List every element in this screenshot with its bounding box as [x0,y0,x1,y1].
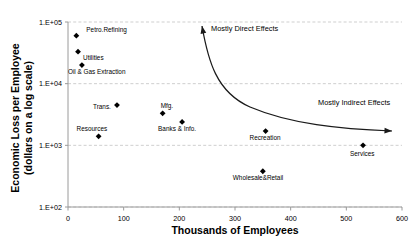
data-point-label: Utilities [83,54,104,61]
y-tick-label: 1.E+05 [39,18,62,27]
x-tick-label: 600 [396,214,408,223]
data-point-label: Services [350,150,375,157]
scatter-chart: 1.E+021.E+031.E+041.E+05 010020030040050… [0,0,418,243]
x-tick-label: 200 [173,214,185,223]
x-tick-label: 0 [66,214,70,223]
data-point-label: Oil & Gas Extraction [68,68,126,75]
x-tick-label: 100 [118,214,130,223]
data-point-label: Banks & Info. [158,125,196,132]
data-point-label: Wholesale&Retail [233,174,283,181]
y-axis-title-line1: Economic Loss per Employee [9,43,21,193]
y-tick-label: 1.E+02 [39,203,62,212]
x-tick-label: 500 [340,214,352,223]
data-point-label: Petro.Refining [86,26,127,34]
annotation-mostly-direct-effects: Mostly Direct Effects [211,24,279,33]
x-tick-label: 300 [229,214,241,223]
chart-canvas: 1.E+021.E+031.E+041.E+05 010020030040050… [0,0,418,243]
x-tick-label: 400 [285,214,297,223]
data-point-label: Resources [77,125,108,132]
annotation-mostly-indirect-effects: Mostly Indirect Effects [318,98,390,107]
data-point-label: Trans. [93,103,111,110]
data-point-label: Mfg. [161,102,174,110]
y-tick-label: 1.E+03 [39,141,62,150]
data-point-label: Recreation [250,134,281,141]
y-tick-label: 1.E+04 [39,79,62,88]
x-axis-title: Thousands of Employees [171,224,298,236]
y-axis-title-line2: (dollars on a log scale) [22,61,34,175]
